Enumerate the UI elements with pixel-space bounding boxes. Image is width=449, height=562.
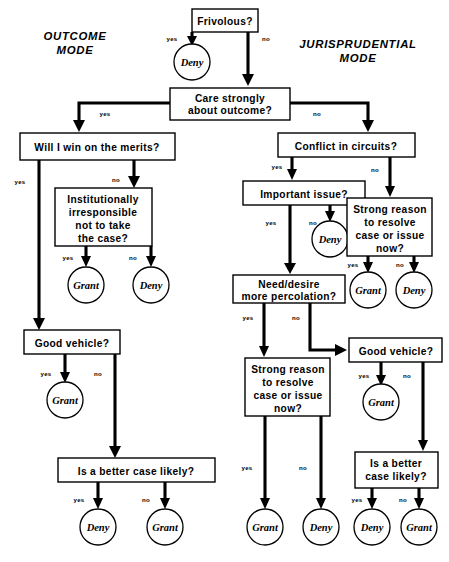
node-grant-vehicle-right-label: Grant: [368, 397, 395, 408]
edge-label-vehicleleft-no: no: [94, 370, 102, 377]
arrowhead-vehicleleft-better: [109, 446, 121, 458]
node-important-issue-label: Important issue?: [260, 189, 348, 200]
arrowhead-strongbottom-deny: [316, 498, 326, 509]
node-deny-strong-right-label: Deny: [402, 285, 426, 296]
arrowhead-strongbottom-grant: [260, 498, 270, 509]
node-deny-frivolous-label: Deny: [180, 57, 204, 68]
node-strong-right-line2: to resolve: [364, 217, 416, 228]
node-grant-strong-right[interactable]: Grant: [350, 272, 386, 308]
edge-label-care-no: no: [313, 110, 321, 117]
node-grant-institutional-label: Grant: [73, 280, 100, 291]
node-grant-better-right-label: Grant: [406, 522, 433, 533]
node-percolation-line2: more percolation?: [242, 291, 337, 302]
node-better-case-right[interactable]: Is a better case likely?: [355, 452, 438, 488]
node-better-right-line2: case likely?: [365, 471, 426, 482]
edge-label-vehicleright-no: no: [403, 372, 411, 379]
node-deny-strong-right[interactable]: Deny: [396, 272, 432, 308]
edge-label-frivolous-yes: yes: [167, 35, 178, 42]
node-good-vehicle-right-label: Good vehicle?: [359, 346, 434, 357]
edge-label-strongbottom-no: no: [299, 464, 307, 471]
jurisprudential-mode-title: JURISPRUDENTIAL MODE: [299, 38, 416, 64]
node-grant-vehicle-left[interactable]: Grant: [47, 382, 83, 418]
node-care-strongly-label-line2: about outcome?: [188, 105, 272, 116]
node-grant-better-right[interactable]: Grant: [401, 509, 437, 545]
edge-label-percolation-no: no: [292, 314, 300, 321]
node-deny-important-label: Deny: [318, 234, 342, 245]
node-grant-strong-bottom[interactable]: Grant: [247, 509, 283, 545]
arrowhead-betterleft-grant: [160, 498, 170, 509]
edge-label-institutional-yes: yes: [63, 254, 74, 261]
node-better-case-left-label: Is a better case likely?: [78, 466, 195, 477]
node-frivolous[interactable]: Frivolous?: [192, 9, 258, 32]
edge-care-merits: [79, 103, 170, 122]
arrowhead-institutional-grant: [81, 256, 91, 267]
arrowhead-merits-institutional: [128, 176, 140, 188]
node-percolation-line1: Need/desire: [258, 279, 320, 290]
node-grant-strong-bottom-label: Grant: [252, 522, 279, 533]
node-will-i-win-label: Will I win on the merits?: [34, 142, 159, 153]
node-care-strongly-label-line1: Care strongly: [195, 93, 265, 104]
flowchart-svg: OUTCOME MODE JURISPRUDENTIAL MODE: [0, 0, 449, 562]
edge-label-vehicleright-yes: yes: [359, 372, 370, 379]
node-strong-bottom-line3: case or issue: [253, 390, 322, 401]
edge-label-frivolous-no: no: [262, 35, 270, 42]
arrowhead-percolation-vehicleright: [335, 344, 347, 356]
arrowhead-betterleft-deny: [93, 498, 103, 509]
node-deny-better-right[interactable]: Deny: [354, 509, 390, 545]
node-grant-vehicle-left-label: Grant: [52, 395, 79, 406]
edge-label-strongright-no: no: [396, 261, 404, 268]
node-grant-institutional[interactable]: Grant: [68, 267, 104, 303]
edge-label-betterright-yes: yes: [352, 496, 363, 503]
node-deny-better-right-label: Deny: [360, 522, 384, 533]
arrowhead-betterright-deny: [367, 498, 377, 509]
edge-label-vehicleleft-yes: yes: [41, 370, 52, 377]
edge-label-betterleft-yes: yes: [74, 496, 85, 503]
node-deny-frivolous[interactable]: Deny: [174, 44, 210, 80]
node-conflict-circuits[interactable]: Conflict in circuits?: [278, 133, 415, 157]
edge-care-conflict: [290, 103, 368, 122]
node-frivolous-label: Frivolous?: [197, 16, 253, 27]
node-institutional-label-line2: irresponsible: [69, 207, 138, 218]
node-good-vehicle-left[interactable]: Good vehicle?: [24, 330, 120, 354]
node-better-right-line1: Is a better: [370, 458, 422, 469]
node-deny-institutional[interactable]: Deny: [133, 267, 169, 303]
arrowhead-betterright-grant: [414, 498, 424, 509]
arrowhead-conflict-strongright: [385, 186, 395, 197]
node-grant-vehicle-right[interactable]: Grant: [363, 384, 399, 420]
node-better-case-left[interactable]: Is a better case likely?: [58, 458, 215, 482]
outcome-mode-title-line2: MODE: [57, 44, 94, 56]
node-good-vehicle-right[interactable]: Good vehicle?: [349, 338, 442, 362]
node-institutional-label-line4: the case?: [78, 233, 128, 244]
node-institutional-label-line3: not to take: [75, 220, 130, 231]
arrowhead-frivolous-care: [242, 74, 254, 86]
jurisprudential-mode-title-line1: JURISPRUDENTIAL: [299, 38, 416, 50]
edge-label-important-no: no: [309, 219, 317, 226]
arrowhead-care-merits: [73, 120, 85, 132]
node-will-i-win[interactable]: Will I win on the merits?: [20, 133, 175, 160]
node-deny-strong-bottom[interactable]: Deny: [303, 509, 339, 545]
arrowhead-institutional-deny: [146, 256, 156, 267]
edge-label-care-yes: yes: [100, 110, 111, 117]
outcome-mode-title-line1: OUTCOME: [43, 30, 106, 42]
edge-label-betterleft-no: no: [142, 496, 150, 503]
node-strong-reason-bottom[interactable]: Strong reason to resolve case or issue n…: [245, 358, 330, 416]
node-grant-strong-right-label: Grant: [355, 285, 382, 296]
node-deny-strong-bottom-label: Deny: [309, 522, 333, 533]
edge-label-institutional-no: no: [129, 254, 137, 261]
node-deny-important[interactable]: Deny: [312, 221, 348, 257]
node-grant-better-left[interactable]: Grant: [147, 509, 183, 545]
node-strong-reason-right[interactable]: Strong reason to resolve case or issue n…: [347, 198, 432, 256]
node-conflict-circuits-label: Conflict in circuits?: [295, 141, 397, 152]
node-strong-bottom-line1: Strong reason: [251, 364, 325, 375]
edge-label-merits-yes: yes: [15, 178, 26, 185]
node-strong-bottom-line4: now?: [274, 403, 302, 414]
edge-label-merits-no: no: [112, 176, 120, 183]
node-deny-better-left[interactable]: Deny: [80, 509, 116, 545]
edge-label-important-yes: yes: [266, 219, 277, 226]
arrowhead-conflict-important: [287, 169, 297, 180]
node-institutionally-irresponsible[interactable]: Institutionally irresponsible not to tak…: [55, 188, 152, 246]
node-percolation[interactable]: Need/desire more percolation?: [233, 275, 345, 303]
node-care-strongly[interactable]: Care strongly about outcome?: [170, 88, 290, 120]
arrowhead-care-conflict: [362, 120, 374, 132]
arrowhead-percolation-strongbottom: [259, 346, 269, 357]
